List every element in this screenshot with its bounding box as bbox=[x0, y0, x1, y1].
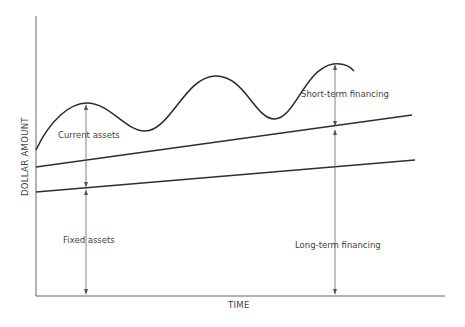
label-current-assets: Current assets bbox=[58, 131, 120, 140]
arrowhead-up-icon bbox=[333, 64, 337, 70]
y-axis-label: DOLLAR AMOUNT bbox=[21, 117, 30, 196]
arrowhead-down-icon bbox=[84, 289, 88, 295]
label-long-term-financing: Long-term financing bbox=[295, 241, 381, 250]
fixed-assets-line bbox=[36, 160, 415, 192]
arrowhead-up-icon bbox=[84, 189, 88, 195]
financing-diagram bbox=[0, 0, 465, 327]
arrowhead-down-icon bbox=[333, 289, 337, 295]
permanent-assets-line bbox=[36, 115, 412, 167]
arrowhead-up-icon bbox=[333, 129, 337, 135]
label-short-term-financing: Short-term financing bbox=[301, 90, 389, 99]
arrowhead-up-icon bbox=[84, 104, 88, 110]
label-fixed-assets: Fixed assets bbox=[63, 236, 115, 245]
x-axis-label: TIME bbox=[228, 301, 250, 310]
